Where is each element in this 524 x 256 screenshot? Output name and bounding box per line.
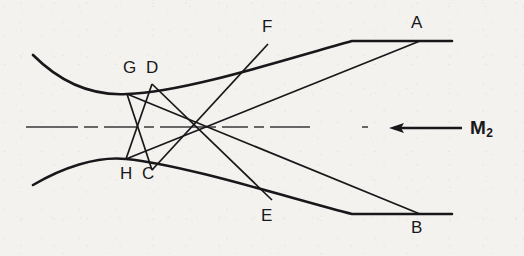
figure-canvas: A B F E G D H C M2 xyxy=(0,0,524,256)
label-points-g-d: G D xyxy=(123,59,161,76)
lower-envelope-curve xyxy=(33,159,452,214)
label-m2-subscript: 2 xyxy=(486,126,493,140)
label-point-f: F xyxy=(262,18,273,35)
label-point-a: A xyxy=(411,14,423,31)
upper-envelope-curve xyxy=(33,41,452,94)
ray-G-to-B xyxy=(127,94,420,214)
ray-C-to-F xyxy=(152,44,268,170)
ray-H-to-A xyxy=(126,41,420,159)
label-m2-letter: M xyxy=(470,117,486,138)
incoming-direction-arrow xyxy=(389,123,462,133)
label-point-b: B xyxy=(411,219,423,236)
label-point-e: E xyxy=(261,207,273,224)
label-points-h-c: H C xyxy=(120,165,157,182)
label-m2: M2 xyxy=(470,118,493,139)
